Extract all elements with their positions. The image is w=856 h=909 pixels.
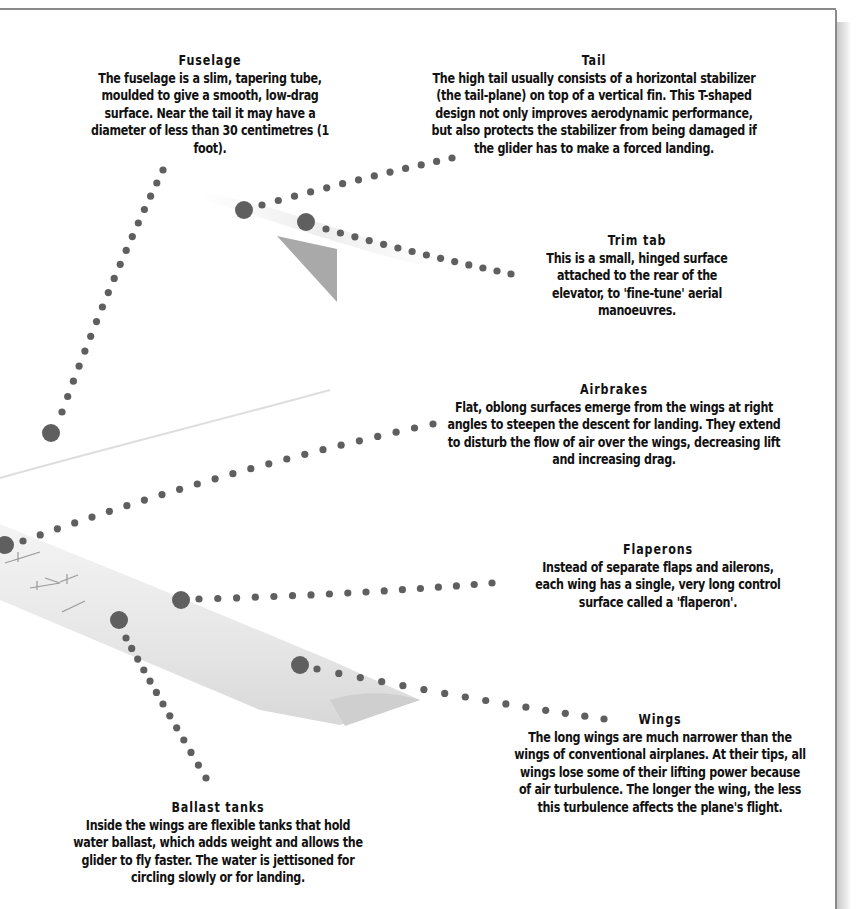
anchor-dot-icon — [291, 656, 309, 674]
callout-title: Fuselage — [90, 52, 331, 70]
leader-fuselage — [42, 166, 167, 442]
anchor-dot-icon — [235, 201, 253, 219]
callout-title: Flaperons — [529, 541, 787, 559]
callout-airbrakes: Airbrakes Flat, oblong surfaces emerge f… — [442, 381, 786, 469]
callout-wings: Wings The long wings are much narrower t… — [514, 711, 806, 817]
anchor-dot-icon — [172, 591, 190, 609]
callout-trim-tab: Trim tab This is a small, hinged surface… — [530, 232, 745, 320]
callout-flaperons: Flaperons Instead of separate flaps and … — [529, 541, 787, 611]
callout-title: Airbrakes — [442, 381, 786, 399]
callout-text: The high tail usually consists of a hori… — [431, 70, 758, 158]
callout-fuselage: Fuselage The fuselage is a slim, taperin… — [90, 52, 331, 158]
leader-trim-tab — [297, 213, 515, 278]
leader-airbrakes — [0, 420, 437, 554]
leader-tail — [235, 154, 456, 219]
callout-title: Wings — [514, 711, 806, 729]
callout-text: Inside the wings are flexible tanks that… — [72, 817, 364, 887]
anchor-dot-icon — [42, 424, 60, 442]
callout-text: The fuselage is a slim, tapering tube, m… — [90, 70, 331, 158]
leader-wings — [110, 611, 210, 782]
callout-text: The long wings are much narrower than th… — [514, 729, 806, 817]
callout-text: Instead of separate flaps and ailerons, … — [529, 559, 787, 612]
anchor-dot-icon — [297, 213, 315, 231]
callout-text: Flat, oblong surfaces emerge from the wi… — [442, 399, 786, 469]
callout-title: Tail — [431, 52, 758, 70]
anchor-dot-icon — [0, 536, 14, 554]
callout-ballast-tanks: Ballast tanks Inside the wings are flexi… — [72, 799, 364, 887]
callout-title: Trim tab — [530, 232, 745, 250]
callout-tail: Tail The high tail usually consists of a… — [431, 52, 758, 158]
anchor-dot-icon — [110, 611, 128, 629]
callout-title: Ballast tanks — [72, 799, 364, 817]
leader-flaperons — [172, 579, 496, 609]
callout-text: This is a small, hinged surface attached… — [530, 250, 745, 320]
